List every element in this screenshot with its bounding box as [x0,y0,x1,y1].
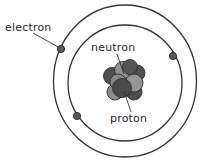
proton-label: proton [110,113,147,124]
electron-leader-line [33,33,60,48]
neutron-label: neutron [91,42,135,53]
electron-particle [169,52,176,59]
electron-particle [57,45,64,52]
electron-particle [73,112,80,119]
proton-particle [113,79,132,98]
proton-particle [123,60,138,75]
electron-label: electron [5,22,52,33]
atom-diagram: electron neutron proton [0,0,203,165]
nucleus [104,60,146,101]
